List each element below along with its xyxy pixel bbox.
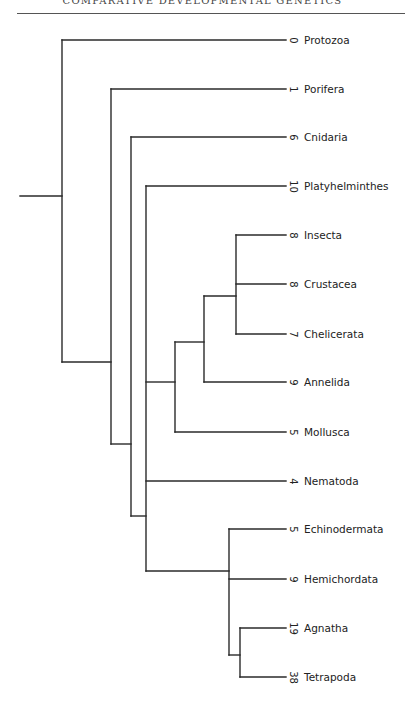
leaf-porifera: 1 Porifera xyxy=(286,81,345,97)
leaf-platyhelminthes: 10 Platyhelminthes xyxy=(286,178,389,194)
taxon-label: Echinodermata xyxy=(304,523,384,535)
gene-count: 0 xyxy=(286,35,300,46)
taxon-label: Insecta xyxy=(304,229,342,241)
phylogenetic-tree xyxy=(0,0,405,712)
leaf-chelicerata: 7 Chelicerata xyxy=(286,326,364,342)
leaf-protozoa: 0 Protozoa xyxy=(286,32,350,48)
gene-count: 8 xyxy=(286,230,300,241)
taxon-label: Mollusca xyxy=(304,426,350,438)
taxon-label: Porifera xyxy=(304,83,345,95)
leaf-hemichordata: 9 Hemichordata xyxy=(286,571,378,587)
gene-count: 10 xyxy=(286,181,300,192)
taxon-label: Crustacea xyxy=(304,278,357,290)
taxon-label: Cnidaria xyxy=(304,131,348,143)
gene-count: 7 xyxy=(286,329,300,340)
leaf-cnidaria: 6 Cnidaria xyxy=(286,129,348,145)
gene-count: 9 xyxy=(286,377,300,388)
leaf-echinodermata: 5 Echinodermata xyxy=(286,521,384,537)
leaf-annelida: 9 Annelida xyxy=(286,374,350,390)
gene-count: 1 xyxy=(286,84,300,95)
leaf-insecta: 8 Insecta xyxy=(286,227,342,243)
leaf-agnatha: 19 Agnatha xyxy=(286,620,348,636)
taxon-label: Agnatha xyxy=(304,622,348,634)
leaf-nematoda: 4 Nematoda xyxy=(286,473,359,489)
taxon-label: Tetrapoda xyxy=(304,671,356,683)
taxon-label: Chelicerata xyxy=(304,328,364,340)
gene-count: 19 xyxy=(286,623,300,634)
taxon-label: Protozoa xyxy=(304,34,350,46)
gene-count: 9 xyxy=(286,574,300,585)
leaf-tetrapoda: 38 Tetrapoda xyxy=(286,669,356,685)
gene-count: 5 xyxy=(286,427,300,438)
taxon-label: Annelida xyxy=(304,376,350,388)
gene-count: 5 xyxy=(286,524,300,535)
taxon-label: Hemichordata xyxy=(304,573,378,585)
gene-count: 4 xyxy=(286,476,300,487)
taxon-label: Platyhelminthes xyxy=(304,180,389,192)
gene-count: 6 xyxy=(286,132,300,143)
taxon-label: Nematoda xyxy=(304,475,359,487)
leaf-crustacea: 8 Crustacea xyxy=(286,276,357,292)
gene-count: 8 xyxy=(286,279,300,290)
gene-count: 38 xyxy=(286,672,300,683)
leaf-mollusca: 5 Mollusca xyxy=(286,424,350,440)
